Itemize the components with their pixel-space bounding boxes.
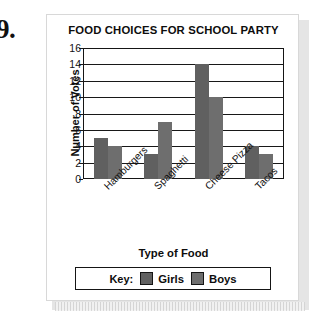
y-axis-tick-label: 2 (55, 157, 81, 169)
y-axis-tick-label: 16 (55, 42, 81, 54)
x-axis-title: Type of Food (47, 247, 300, 259)
gridline (83, 81, 284, 82)
legend-swatch-girls (140, 272, 153, 285)
legend-entry-boys: Boys (191, 272, 237, 285)
bar-girls-hamburgers (94, 138, 108, 179)
gridline (83, 97, 284, 98)
y-axis-tick-label: 10 (55, 91, 81, 103)
y-axis-tick-label: 6 (55, 124, 81, 136)
chart-title: FOOD CHOICES FOR SCHOOL PARTY (47, 24, 300, 36)
bar-girls-cheese-pizza (195, 64, 209, 179)
y-axis-tick-label: 14 (55, 58, 81, 70)
y-axis-tick-label: 4 (55, 140, 81, 152)
gridline (83, 130, 284, 131)
y-axis-tick-label: 0 (55, 173, 81, 185)
problem-number: 9. (0, 14, 15, 45)
gridline (83, 64, 284, 65)
gridline (83, 114, 284, 115)
chart-legend: Key: Girls Boys (75, 267, 271, 290)
legend-label-boys: Boys (209, 273, 237, 285)
chart-card: FOOD CHOICES FOR SCHOOL PARTY Number of … (46, 14, 299, 301)
page-edge-texture (55, 302, 305, 311)
y-axis-tick-label: 8 (55, 108, 81, 120)
y-axis-tick-label: 12 (55, 75, 81, 87)
legend-label-girls: Girls (158, 273, 184, 285)
plot-wrapper: 0246810121416 HamburgersSpaghettiCheese … (83, 48, 284, 179)
legend-key-label: Key: (109, 273, 133, 285)
legend-swatch-boys (191, 272, 204, 285)
legend-entry-girls: Girls (140, 272, 184, 285)
bar-girls-spaghetti (144, 154, 158, 179)
